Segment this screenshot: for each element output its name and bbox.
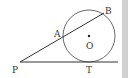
label-o: O <box>86 41 93 51</box>
center-point-o <box>88 35 90 37</box>
label-a: A <box>53 29 61 39</box>
label-b: B <box>105 6 112 16</box>
label-t: T <box>86 65 92 75</box>
secant-line-pb <box>20 13 104 62</box>
page-edge <box>122 0 128 78</box>
geometry-diagram: P A B O T <box>0 0 128 78</box>
label-p: P <box>12 65 18 75</box>
